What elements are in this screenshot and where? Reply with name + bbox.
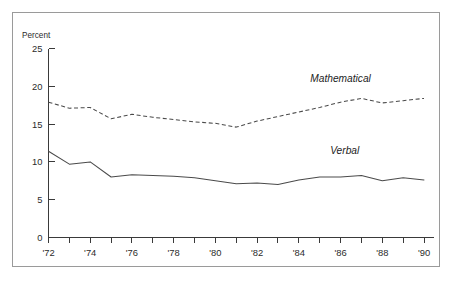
series-line-verbal xyxy=(49,151,425,184)
series-label-verbal: Verbal xyxy=(330,145,360,156)
y-tick-label-25: 25 xyxy=(32,43,42,54)
x-tick-label-1978: '78 xyxy=(168,247,180,258)
y-tick-label-5: 5 xyxy=(37,194,42,205)
x-tick-label-1980: '80 xyxy=(209,247,221,258)
y-tick-label-0: 0 xyxy=(37,232,42,243)
series-line-mathematical xyxy=(49,98,425,127)
x-tick-label-1982: '82 xyxy=(251,247,263,258)
x-tick-label-1990: '90 xyxy=(418,247,430,258)
x-tick-label-1976: '76 xyxy=(126,247,138,258)
chart-figure: 0510152025 '72'74'76'78'80'82'84'86'88'9… xyxy=(0,0,453,282)
x-tick-label-1972: '72 xyxy=(42,247,54,258)
x-tick-label-1988: '88 xyxy=(376,247,388,258)
x-tick-label-1986: '86 xyxy=(334,247,346,258)
y-tick-label-20: 20 xyxy=(32,81,42,92)
x-tick-label-1984: '84 xyxy=(293,247,305,258)
x-axis-ticks: '72'74'76'78'80'82'84'86'88'90 xyxy=(42,238,430,258)
y-tick-label-15: 15 xyxy=(32,119,42,130)
line-chart-plot: 0510152025 '72'74'76'78'80'82'84'86'88'9… xyxy=(0,0,453,282)
y-axis-ticks: 0510152025 xyxy=(32,43,54,243)
data-series-group xyxy=(49,98,425,184)
y-axis-title: Percent xyxy=(22,31,51,40)
series-label-mathematical: Mathematical xyxy=(310,73,371,84)
x-tick-label-1974: '74 xyxy=(84,247,96,258)
y-tick-label-10: 10 xyxy=(32,156,42,167)
